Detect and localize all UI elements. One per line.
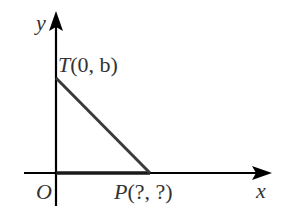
- x-axis-label: x: [255, 178, 266, 203]
- svg-text:P(?, ?): P(?, ?): [113, 179, 173, 204]
- point-t-label: T(0, b): [58, 52, 118, 77]
- point-t-coords: (0, b): [70, 52, 118, 77]
- coordinate-diagram: y x O T(0, b) P(?, ?): [0, 0, 288, 210]
- point-p-label: P(?, ?): [113, 179, 173, 204]
- svg-text:T(0, b): T(0, b): [58, 52, 118, 77]
- y-axis-label: y: [34, 10, 46, 35]
- origin-label: O: [36, 179, 52, 204]
- point-p-coords: (?, ?): [127, 179, 172, 204]
- y-axis: [49, 11, 63, 206]
- point-p-name: P: [113, 179, 127, 204]
- segment-tp: [56, 78, 150, 173]
